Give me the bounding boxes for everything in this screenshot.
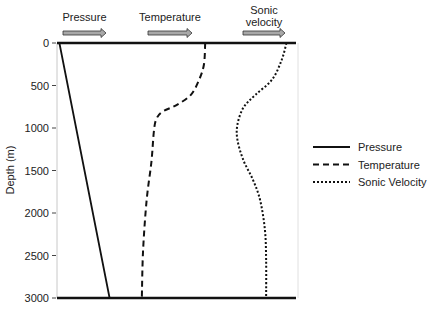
legend-label: Pressure bbox=[358, 141, 402, 153]
y-axis-label: Depth (m) bbox=[4, 146, 16, 195]
annotation-label: Sonic bbox=[250, 4, 278, 16]
series-lines bbox=[59, 43, 286, 298]
y-tick-label: 2000 bbox=[25, 207, 49, 219]
y-tick-label: 2500 bbox=[25, 250, 49, 262]
right-arrow-icon bbox=[63, 29, 106, 38]
y-tick-label: 3000 bbox=[25, 292, 49, 304]
annotation-label: Pressure bbox=[62, 11, 106, 23]
legend: PressureTemperatureSonic Velocity bbox=[313, 141, 427, 188]
series-pressure bbox=[59, 43, 109, 298]
depth-profile-chart: 050010001500200025003000 PressureTempera… bbox=[0, 0, 429, 316]
legend-label: Temperature bbox=[358, 159, 420, 171]
series-temperature bbox=[142, 43, 205, 298]
right-arrow-icon bbox=[148, 29, 192, 38]
annotation-label: Temperature bbox=[139, 11, 201, 23]
annotation-label: velocity bbox=[246, 16, 283, 28]
y-tick-label: 0 bbox=[43, 37, 49, 49]
series-sonic-velocity bbox=[237, 43, 287, 298]
legend-label: Sonic Velocity bbox=[358, 176, 427, 188]
y-tick-label: 1000 bbox=[25, 122, 49, 134]
right-arrow-icon bbox=[243, 29, 285, 38]
top-annotations: PressureTemperatureSonicvelocity bbox=[62, 4, 285, 38]
y-tick-label: 1500 bbox=[25, 165, 49, 177]
y-tick-label: 500 bbox=[31, 80, 49, 92]
